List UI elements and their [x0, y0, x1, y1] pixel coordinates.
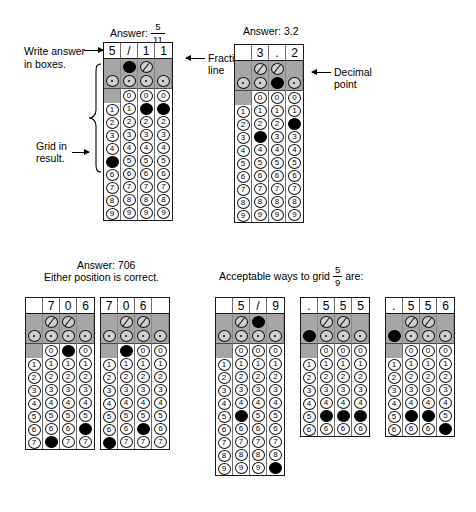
digit-column[interactable]: 12346789: [104, 89, 121, 220]
digit-column[interactable]: 123456789: [235, 91, 252, 222]
bubble-open[interactable]: 8: [218, 450, 231, 462]
bubble-open[interactable]: [320, 316, 333, 328]
bubble-open[interactable]: 5: [157, 155, 170, 167]
bubble-open[interactable]: 6: [157, 168, 170, 180]
answer-box[interactable]: /: [250, 298, 267, 314]
bubble-open[interactable]: 5: [288, 157, 301, 169]
bubble-open[interactable]: 6: [106, 169, 119, 181]
bubble-open[interactable]: 8: [252, 449, 265, 461]
bubble-filled[interactable]: [123, 61, 136, 73]
bubble-open[interactable]: 7: [28, 437, 41, 449]
bubble-filled[interactable]: [422, 410, 435, 422]
bubble-open[interactable]: [154, 330, 167, 342]
bubble-open[interactable]: 1: [388, 359, 401, 371]
bubble-open[interactable]: 6: [271, 170, 284, 182]
answer-box[interactable]: [235, 45, 252, 61]
bubble-open[interactable]: 7: [157, 181, 170, 193]
bubble-open[interactable]: 1: [106, 104, 119, 116]
bubble-open[interactable]: [439, 330, 452, 342]
bubble-open[interactable]: 1: [354, 358, 367, 370]
bubble-open[interactable]: 7: [137, 436, 150, 448]
digit-column[interactable]: 0123457: [135, 344, 152, 449]
bubble-open[interactable]: 6: [120, 423, 133, 435]
answer-box[interactable]: 6: [135, 298, 152, 314]
bubble-open[interactable]: [120, 330, 133, 342]
bubble-open[interactable]: 2: [157, 116, 170, 128]
bubble-open[interactable]: 4: [271, 144, 284, 156]
bubble-filled[interactable]: [120, 345, 133, 357]
bubble-open[interactable]: 3: [388, 385, 401, 397]
bubble-open[interactable]: 2: [252, 371, 265, 383]
bubble-open[interactable]: 4: [303, 398, 316, 410]
bubble-open[interactable]: 1: [405, 358, 418, 370]
bubble-open[interactable]: 4: [106, 143, 119, 155]
bubble-open[interactable]: 5: [269, 410, 282, 422]
bubble-open[interactable]: 7: [235, 436, 248, 448]
bubble-open[interactable]: [62, 330, 75, 342]
bubble-open[interactable]: 2: [106, 117, 119, 129]
digit-column[interactable]: 012346: [352, 344, 369, 436]
bubble-open[interactable]: 7: [154, 436, 167, 448]
grid-706-left[interactable]: 7061234561234567012345701234567: [100, 297, 170, 450]
answer-box[interactable]: 1: [155, 43, 172, 59]
bubble-open[interactable]: 5: [254, 157, 267, 169]
bubble-open[interactable]: [269, 330, 282, 342]
bubble-filled[interactable]: [103, 437, 116, 449]
bubble-open[interactable]: [120, 316, 133, 328]
bubble-open[interactable]: 4: [123, 142, 136, 154]
answer-box[interactable]: 7: [101, 298, 118, 314]
answer-box[interactable]: 0: [60, 298, 77, 314]
bubble-open[interactable]: 3: [288, 131, 301, 143]
bubble-open[interactable]: 3: [235, 384, 248, 396]
bubble-open[interactable]: 0: [422, 345, 435, 357]
bubble-open[interactable]: 7: [271, 183, 284, 195]
bubble-open[interactable]: 1: [62, 358, 75, 370]
bubble-open[interactable]: [137, 330, 150, 342]
bubble-open[interactable]: 2: [337, 371, 350, 383]
grid-706-right[interactable]: 7061234567012345612345670123457: [25, 297, 95, 450]
bubble-open[interactable]: 4: [79, 397, 92, 409]
grid-point-556[interactable]: .556123456012346012346012345: [385, 297, 455, 437]
bubble-filled[interactable]: [252, 316, 265, 328]
bubble-open[interactable]: 5: [388, 411, 401, 423]
bubble-open[interactable]: [140, 75, 153, 87]
bubble-open[interactable]: 4: [62, 397, 75, 409]
digit-column[interactable]: 123456: [101, 344, 118, 449]
bubble-open[interactable]: 4: [157, 142, 170, 154]
bubble-open[interactable]: 3: [271, 131, 284, 143]
bubble-open[interactable]: 0: [137, 345, 150, 357]
bubble-open[interactable]: 4: [45, 397, 58, 409]
bubble-open[interactable]: 2: [137, 371, 150, 383]
bubble-open[interactable]: [137, 316, 150, 328]
bubble-open[interactable]: 0: [405, 345, 418, 357]
bubble-filled[interactable]: [140, 103, 153, 115]
bubble-open[interactable]: 5: [62, 410, 75, 422]
bubble-open[interactable]: 1: [303, 359, 316, 371]
bubble-open[interactable]: 0: [320, 345, 333, 357]
bubble-open[interactable]: 4: [218, 398, 231, 410]
bubble-open[interactable]: [288, 77, 301, 89]
bubble-filled[interactable]: [288, 118, 301, 130]
bubble-open[interactable]: 2: [45, 371, 58, 383]
bubble-open[interactable]: 5: [271, 157, 284, 169]
bubble-open[interactable]: 2: [62, 371, 75, 383]
bubble-open[interactable]: 2: [439, 371, 452, 383]
digit-column[interactable]: 1234567: [60, 344, 77, 449]
bubble-open[interactable]: 6: [103, 424, 116, 436]
bubble-open[interactable]: 3: [337, 384, 350, 396]
bubble-open[interactable]: 5: [140, 155, 153, 167]
bubble-open[interactable]: 3: [269, 384, 282, 396]
bubble-open[interactable]: 3: [354, 384, 367, 396]
bubble-open[interactable]: 5: [120, 410, 133, 422]
answer-box[interactable]: [26, 298, 43, 314]
digit-column[interactable]: 012345678: [267, 344, 284, 475]
answer-box[interactable]: 5: [403, 298, 420, 314]
bubble-open[interactable]: 6: [269, 423, 282, 435]
bubble-open[interactable]: [28, 330, 41, 342]
bubble-open[interactable]: 6: [237, 171, 250, 183]
bubble-filled[interactable]: [79, 423, 92, 435]
bubble-open[interactable]: [237, 77, 250, 89]
bubble-open[interactable]: 7: [140, 181, 153, 193]
bubble-open[interactable]: [337, 316, 350, 328]
bubble-open[interactable]: 7: [79, 436, 92, 448]
